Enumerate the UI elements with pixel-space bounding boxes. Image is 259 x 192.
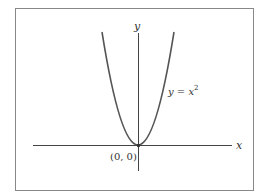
curve-label: y = x2 xyxy=(167,84,199,97)
origin-label: (0, 0) xyxy=(110,151,137,162)
y-axis-label: y xyxy=(133,20,141,33)
parabola-diagram: y x (0, 0) y = x2 xyxy=(0,0,259,192)
curve-label-base: y = x xyxy=(167,86,194,97)
frame xyxy=(16,9,254,191)
x-axis-label: x xyxy=(236,139,243,152)
curve-label-exponent: 2 xyxy=(194,84,198,92)
origin-point xyxy=(137,144,141,148)
